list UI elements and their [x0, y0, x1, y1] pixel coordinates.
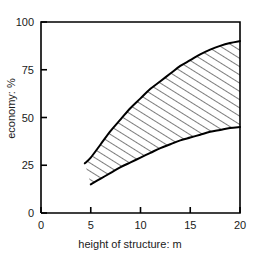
chart-figure: 0 25 50 75 100 0 5 10 15 20 height of st… — [0, 0, 260, 259]
x-tick-label: 5 — [88, 220, 94, 231]
x-tick-label: 15 — [184, 220, 196, 231]
x-tick-label: 20 — [234, 220, 246, 231]
x-axis-title: height of structure: m — [0, 239, 260, 250]
x-tick-label: 10 — [134, 220, 146, 231]
y-tick-label: 0 — [8, 208, 34, 219]
y-tick-label: 25 — [8, 160, 34, 171]
y-axis-title: economy: % — [6, 64, 17, 154]
shaded-band — [85, 41, 240, 184]
x-tick-label: 0 — [38, 220, 44, 231]
y-tick-label: 100 — [8, 17, 34, 28]
